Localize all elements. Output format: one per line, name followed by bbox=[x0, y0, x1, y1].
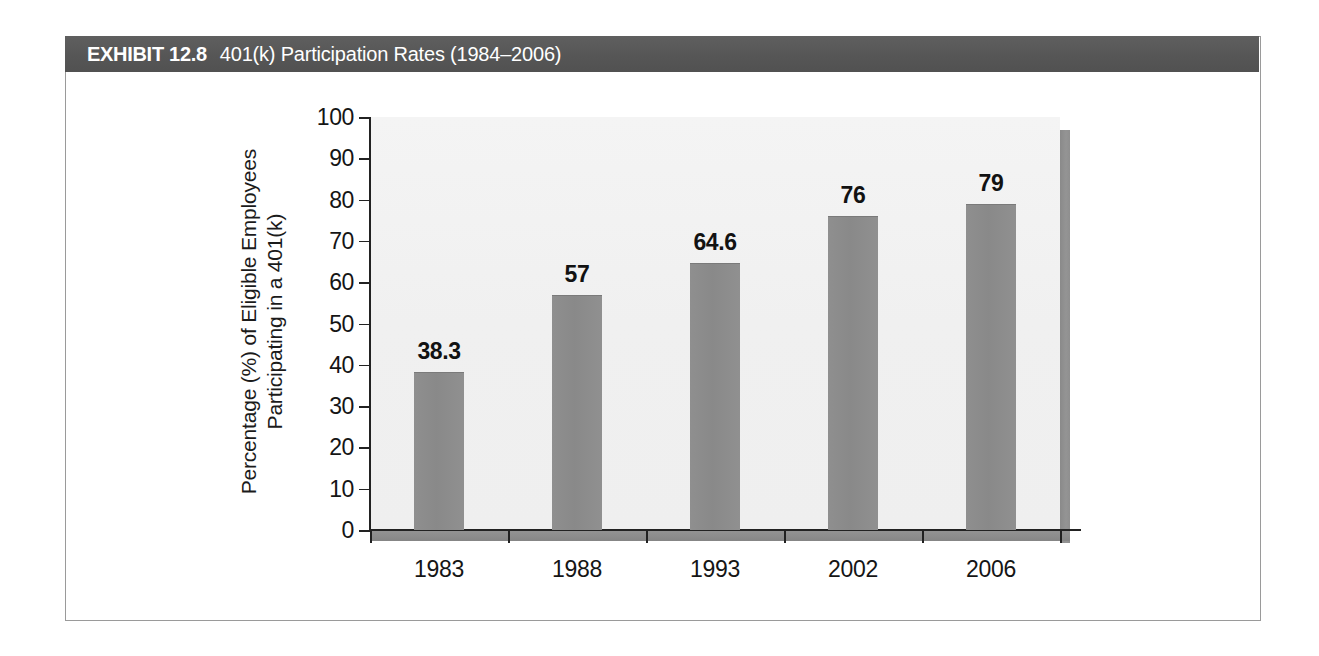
y-tick-mark bbox=[359, 200, 370, 202]
y-tick-mark bbox=[359, 282, 370, 284]
y-tick-mark bbox=[359, 489, 370, 491]
y-tick-label: 30 bbox=[329, 393, 354, 420]
y-tick-mark bbox=[359, 530, 370, 532]
bar bbox=[414, 372, 464, 530]
y-tick-mark bbox=[359, 241, 370, 243]
exhibit-screenshot: EXHIBIT 12.8 401(k) Participation Rates … bbox=[0, 0, 1319, 656]
y-tick-label: 90 bbox=[329, 145, 354, 172]
chart-container: Percentage (%) of Eligible Employees Par… bbox=[65, 72, 1261, 621]
bar-value-label: 38.3 bbox=[417, 338, 460, 365]
y-tick-mark bbox=[359, 406, 370, 408]
y-tick-label: 70 bbox=[329, 227, 354, 254]
y-tick-mark bbox=[359, 365, 370, 367]
y-tick-label: 40 bbox=[329, 351, 354, 378]
x-tick-mark bbox=[922, 530, 924, 543]
y-tick-label: 20 bbox=[329, 434, 354, 461]
x-tick-mark-origin bbox=[370, 530, 372, 543]
x-tick-label: 1983 bbox=[414, 556, 464, 583]
y-tick-mark bbox=[359, 447, 370, 449]
y-axis-title-line-2: Participating in a 401(k) bbox=[262, 111, 288, 531]
exhibit-number-label: EXHIBIT 12.8 bbox=[87, 43, 207, 66]
x-tick-mark bbox=[508, 530, 510, 543]
bar-value-label: 57 bbox=[565, 261, 590, 288]
bar bbox=[828, 216, 878, 530]
x-tick-mark bbox=[1060, 530, 1062, 543]
bar bbox=[690, 263, 740, 530]
bar bbox=[966, 204, 1016, 530]
y-tick-mark bbox=[359, 158, 370, 160]
x-tick-label: 1988 bbox=[552, 556, 602, 583]
exhibit-header-bar: EXHIBIT 12.8 401(k) Participation Rates … bbox=[65, 36, 1259, 72]
exhibit-title: 401(k) Participation Rates (1984–2006) bbox=[220, 43, 562, 66]
y-axis-title-line-1: Percentage (%) of Eligible Employees bbox=[236, 111, 262, 531]
x-tick-label: 2002 bbox=[828, 556, 878, 583]
y-tick-label: 50 bbox=[329, 310, 354, 337]
y-tick-label: 60 bbox=[329, 269, 354, 296]
bar bbox=[552, 295, 602, 530]
y-tick-mark bbox=[359, 324, 370, 326]
y-axis-title: Percentage (%) of Eligible Employees Par… bbox=[236, 111, 287, 531]
x-tick-mark bbox=[646, 530, 648, 543]
y-tick-label: 10 bbox=[329, 475, 354, 502]
bar-value-label: 79 bbox=[979, 170, 1004, 197]
plot-right-wall bbox=[1060, 130, 1070, 543]
x-tick-label: 1993 bbox=[690, 556, 740, 583]
x-tick-mark bbox=[784, 530, 786, 543]
plot-floor-strip bbox=[370, 530, 1070, 541]
x-tick-label: 2006 bbox=[966, 556, 1016, 583]
y-tick-label: 0 bbox=[342, 517, 354, 544]
y-tick-label: 100 bbox=[317, 104, 354, 131]
bar-value-label: 64.6 bbox=[693, 229, 736, 256]
plot-area: 0102030405060708090100 19831988199320022… bbox=[370, 117, 1060, 530]
bar-value-label: 76 bbox=[841, 182, 866, 209]
y-tick-label: 80 bbox=[329, 186, 354, 213]
y-tick-mark bbox=[359, 117, 370, 119]
